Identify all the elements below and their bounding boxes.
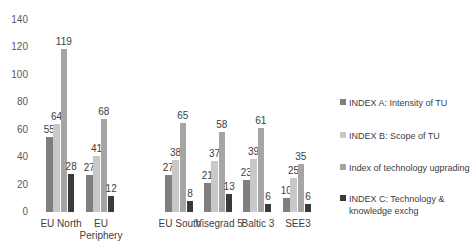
legend-item: Index of technology ugprading — [340, 162, 470, 174]
data-label: 61 — [251, 115, 271, 126]
bar — [243, 180, 250, 212]
data-label: 12 — [101, 183, 121, 194]
legend-label: INDEX A: Intensity of TU — [349, 98, 447, 108]
legend-label: knowledge exchg — [349, 206, 419, 216]
data-label: 58 — [212, 119, 232, 130]
bar — [101, 119, 108, 212]
x-category-label: EUPeriphery — [74, 218, 128, 242]
legend-label: INDEX C: Technology & — [349, 194, 444, 204]
bar — [187, 201, 194, 212]
legend-label: Index of technology ugprading — [349, 163, 470, 173]
x-category-label-line: Periphery — [74, 230, 128, 242]
bar — [290, 178, 297, 212]
data-label: 13 — [219, 181, 239, 192]
legend-swatch — [340, 99, 346, 105]
data-label: 28 — [61, 161, 81, 172]
bar — [68, 174, 75, 212]
data-label: 119 — [54, 36, 74, 47]
bar — [226, 194, 233, 212]
legend-swatch — [340, 195, 346, 201]
bar — [86, 175, 93, 212]
y-tick-label: 80 — [6, 96, 28, 107]
bar — [61, 49, 68, 212]
legend-item: INDEX B: Scope of TU — [340, 130, 470, 142]
bar — [53, 124, 60, 212]
legend-item: INDEX A: Intensity of TU — [340, 97, 470, 109]
data-label: 35 — [291, 151, 311, 162]
y-tick-label: 120 — [6, 41, 28, 52]
bar — [305, 204, 312, 212]
bar — [46, 137, 53, 212]
bar — [165, 175, 172, 212]
data-label: 65 — [173, 110, 193, 121]
data-label: 68 — [94, 106, 114, 117]
x-category-label-line: SEE3 — [271, 218, 325, 230]
y-tick-label: 20 — [6, 179, 28, 190]
bar — [265, 204, 272, 212]
y-tick-label: 60 — [6, 124, 28, 135]
y-tick-label: 0 — [6, 206, 28, 217]
bar — [172, 160, 179, 212]
bar — [211, 161, 218, 212]
bar — [250, 159, 257, 212]
bar — [283, 198, 290, 212]
legend-swatch — [340, 164, 346, 170]
x-category-label-line: EU — [74, 218, 128, 230]
bar — [93, 156, 100, 212]
x-category-label: SEE3 — [271, 218, 325, 230]
legend-label: INDEX B: Scope of TU — [349, 131, 440, 141]
bar — [204, 183, 211, 212]
legend-swatch — [340, 132, 346, 138]
bar — [298, 164, 305, 212]
legend-item: INDEX C: Technology &knowledge exchg — [340, 193, 470, 217]
data-label: 6 — [298, 191, 318, 202]
y-tick-label: 140 — [6, 14, 28, 25]
data-label: 6 — [258, 191, 278, 202]
data-label: 8 — [180, 188, 200, 199]
bar-chart: 020406080100120140 556411928274168122738… — [0, 0, 476, 247]
bar — [219, 132, 226, 212]
y-tick-label: 100 — [6, 69, 28, 80]
bar — [108, 196, 115, 212]
y-tick-label: 40 — [6, 151, 28, 162]
